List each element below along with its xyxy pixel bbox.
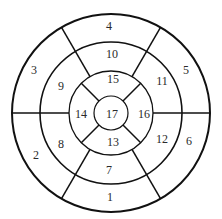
segment-label-9: 9	[58, 79, 64, 93]
segment-label-10: 10	[106, 47, 118, 61]
apical-divider	[81, 125, 99, 143]
segment-label-3: 3	[31, 63, 37, 77]
apical-divider	[123, 125, 141, 143]
segment-divider	[132, 149, 161, 198]
segment-label-8: 8	[58, 137, 64, 151]
segment-label-2: 2	[33, 148, 39, 162]
segment-label-11: 11	[156, 74, 168, 88]
apical-divider	[81, 83, 99, 101]
segment-label-14: 14	[75, 107, 87, 121]
segment-label-1: 1	[107, 190, 113, 204]
apical-divider	[123, 83, 141, 101]
bullseye-svg: 1234567891011121314151617	[0, 0, 222, 219]
bullseye-diagram: 1234567891011121314151617	[0, 0, 222, 219]
segment-label-13: 13	[107, 135, 119, 149]
segment-divider	[62, 149, 91, 198]
segment-label-5: 5	[183, 63, 189, 77]
segment-label-16: 16	[138, 107, 150, 121]
segment-label-12: 12	[156, 132, 168, 146]
segment-divider	[132, 27, 161, 76]
segment-divider	[62, 27, 91, 76]
segment-label-6: 6	[186, 134, 192, 148]
segment-label-4: 4	[106, 19, 112, 33]
segment-label-17: 17	[106, 107, 118, 121]
segment-label-15: 15	[107, 72, 119, 86]
segment-label-7: 7	[106, 163, 112, 177]
